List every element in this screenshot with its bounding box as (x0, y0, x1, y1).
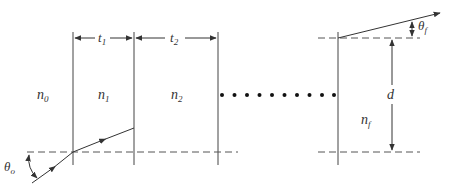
incident-ray (32, 152, 73, 183)
t1-label: t1 (98, 30, 106, 47)
layer-interfaces (73, 32, 338, 165)
n0-label: n0 (37, 87, 49, 104)
ellipsis-dots (220, 93, 336, 97)
n1-label: n1 (98, 87, 110, 104)
optical-layer-diagram: t1 t2 θo θf d n0 n1 n2 nf (0, 0, 458, 190)
nf-label: nf (361, 112, 372, 129)
theta-f-label: θf (418, 18, 428, 35)
n2-label: n2 (171, 87, 183, 104)
theta-o-arc (29, 155, 37, 178)
refracted-ray (73, 128, 134, 152)
theta-o-label: θo (4, 159, 15, 176)
t2-label: t2 (170, 30, 179, 47)
d-label: d (387, 87, 395, 102)
